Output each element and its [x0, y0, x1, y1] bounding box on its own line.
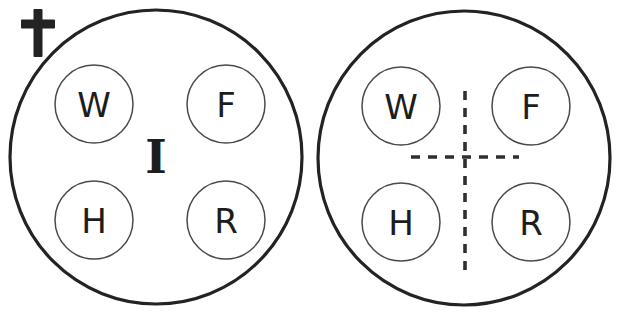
left-node-w-label: W: [77, 85, 111, 125]
diagram-svg: IWFHRWFHR: [0, 0, 622, 317]
left-node-r-label: R: [214, 201, 238, 241]
left-node-f-label: F: [216, 85, 236, 125]
left-node-w[interactable]: W: [55, 65, 133, 143]
right-node-r[interactable]: R: [492, 183, 570, 261]
left-node-f[interactable]: F: [187, 65, 265, 143]
left-node-h-label: H: [81, 201, 107, 241]
left-panel: IWFHR: [10, 10, 302, 304]
right-node-f-label: F: [521, 87, 541, 127]
left-panel-center-label: I: [145, 130, 167, 184]
right-node-w[interactable]: W: [362, 67, 440, 145]
right-node-f[interactable]: F: [492, 67, 570, 145]
right-node-w-label: W: [384, 87, 418, 127]
latin-cross-icon: [21, 9, 55, 57]
right-node-h[interactable]: H: [362, 183, 440, 261]
left-node-h[interactable]: H: [55, 181, 133, 259]
right-node-h-label: H: [388, 203, 414, 243]
right-panel: WFHR: [318, 11, 610, 305]
diagram-canvas: IWFHRWFHR: [0, 0, 622, 317]
left-node-r[interactable]: R: [187, 181, 265, 259]
right-node-r-label: R: [519, 203, 543, 243]
